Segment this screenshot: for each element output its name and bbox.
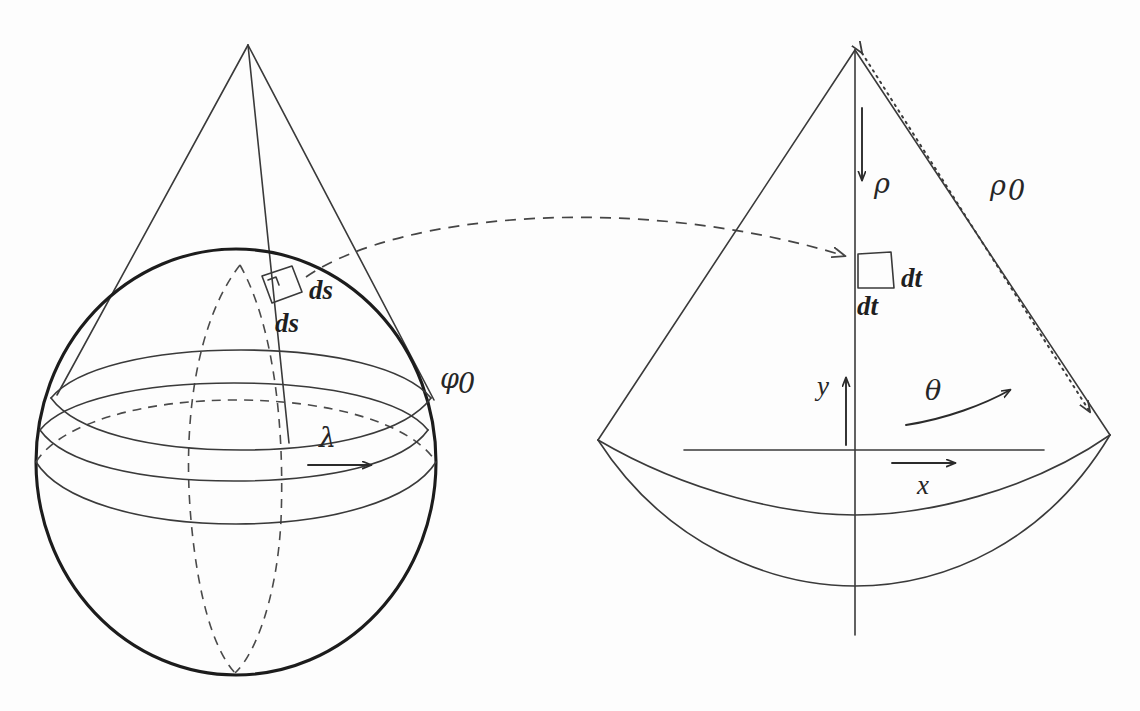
cone-right-generatrix: [248, 45, 434, 400]
ds-right-angle-mark: [268, 277, 279, 285]
label-phi0: φ: [440, 363, 459, 394]
mapping-arrow-group: [306, 217, 845, 277]
theta-arrow: [906, 390, 1010, 425]
label-x-axis: x: [916, 470, 929, 500]
figure-root: ds ds φ 0 λ ρ: [0, 0, 1140, 711]
rho0-dotted-line: [862, 53, 1090, 412]
latitude-circle-lower-front: [40, 430, 428, 481]
label-theta: θ: [925, 375, 941, 406]
label-y-axis: y: [814, 371, 829, 401]
latitude-circle-upper-back: [51, 350, 431, 398]
label-ds-lower: ds: [275, 308, 299, 338]
latitude-circle-upper-front: [51, 398, 431, 450]
rho-direction-group: ρ: [862, 108, 890, 199]
label-rho: ρ: [873, 168, 890, 199]
label-dt-below: dt: [857, 291, 880, 321]
cone-left-generatrix: [57, 45, 248, 395]
y-axis-group: y: [814, 371, 846, 445]
surface-element-ds: [262, 266, 302, 303]
dt-quadrilateral: [858, 252, 894, 288]
sector-outer-arc: [598, 435, 1110, 586]
sector-inner-arc: [598, 435, 1110, 515]
surface-element-dt: dt dt: [857, 252, 924, 321]
left-panel-sphere-cone: ds ds φ 0 λ: [36, 45, 475, 675]
ds-quadrilateral: [262, 266, 302, 303]
label-rho0-subscript: 0: [1008, 175, 1025, 206]
conic-projection-figure: ds ds φ 0 λ ρ: [0, 0, 1140, 711]
theta-direction-group: θ: [906, 375, 1010, 425]
label-dt-right: dt: [901, 263, 924, 293]
rho0-measure-group: ρ 0: [862, 53, 1090, 412]
x-axis-group: x: [892, 463, 955, 500]
label-rho0: ρ: [989, 170, 1006, 201]
latitude-circles: [40, 350, 431, 481]
equator-front-arc: [36, 462, 436, 524]
right-panel-sector: ρ ρ 0 dt dt y x θ: [598, 50, 1110, 635]
latitude-circle-lower-back: [40, 383, 428, 430]
label-lambda: λ: [318, 422, 336, 453]
label-phi0-subscript: 0: [458, 368, 475, 399]
lambda-direction-group: λ: [308, 422, 371, 465]
label-phi0-group: φ 0: [440, 363, 475, 399]
meridian-dashed: [188, 265, 240, 673]
label-ds-upper: ds: [309, 275, 333, 305]
equator-back-arc: [36, 400, 436, 462]
mapping-arrow-curve: [306, 217, 845, 277]
